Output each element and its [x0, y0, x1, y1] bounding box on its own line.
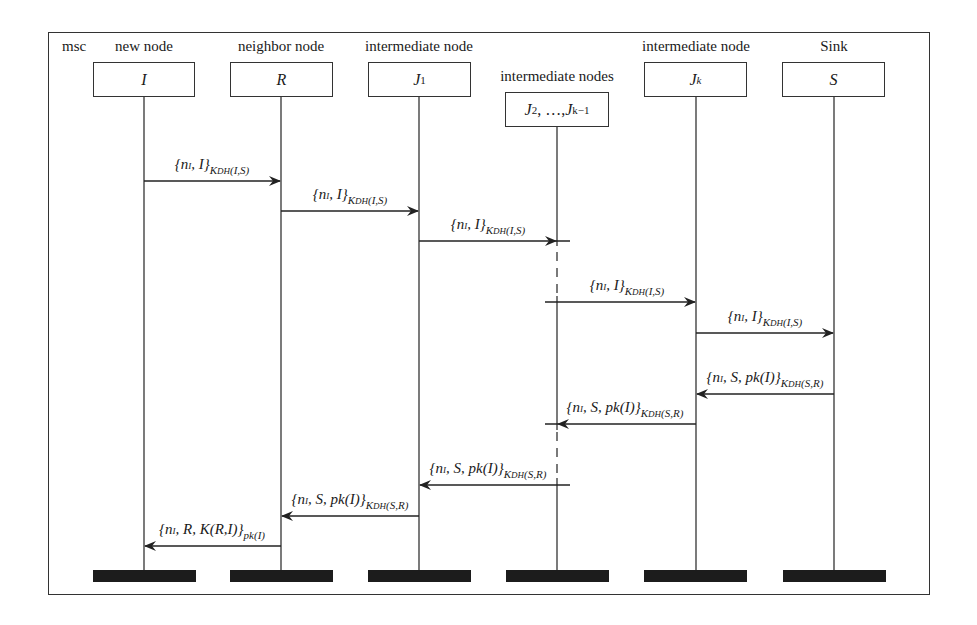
end-bar-J1: [368, 570, 471, 582]
instance-name: J: [525, 101, 532, 119]
end-bar-Jk: [644, 570, 747, 582]
end-bar-I: [93, 570, 196, 582]
end-bar-J2-Jk-1: [506, 570, 609, 582]
end-bar-S: [783, 570, 886, 582]
instance-name: I: [141, 71, 146, 89]
instance-name: J: [413, 71, 420, 89]
message-label: {nI, S, pk(I)}KDH(S,R): [567, 399, 684, 419]
message-label: {nI, I}KDH(I,S): [313, 186, 388, 206]
message-label: {nI, S, pk(I)}KDH(S,R): [707, 369, 824, 389]
message-label: {nI, R, K(R,I)}pk(I): [159, 521, 265, 541]
instance-name: J: [565, 101, 572, 119]
instance-name: S: [830, 71, 838, 89]
message-label: {nI, S, pk(I)}KDH(S,R): [292, 491, 409, 511]
instance-name: J: [690, 71, 697, 89]
instance-box-R: R: [230, 62, 333, 97]
instance-subscript: 1: [420, 74, 426, 86]
message-label: {nI, I}KDH(I,S): [451, 216, 526, 236]
instance-subscript: k: [697, 74, 702, 86]
instance-box-J2-Jk-1: J2, …, Jk−1: [505, 92, 609, 127]
message-label: {nI, S, pk(I)}KDH(S,R): [430, 460, 547, 480]
message-label: {nI, I}KDH(I,S): [175, 156, 250, 176]
end-bar-R: [230, 570, 333, 582]
instance-box-Jk: Jk: [644, 62, 747, 97]
instance-box-S: S: [782, 62, 885, 97]
instance-separator: , …,: [537, 101, 565, 119]
instance-box-J1: J1: [368, 62, 471, 97]
instance-name: R: [277, 71, 287, 89]
message-label: {nI, I}KDH(I,S): [728, 308, 803, 328]
instance-subscript: k−1: [572, 104, 589, 116]
message-label: {nI, I}KDH(I,S): [590, 277, 665, 297]
instance-box-I: I: [93, 62, 195, 97]
